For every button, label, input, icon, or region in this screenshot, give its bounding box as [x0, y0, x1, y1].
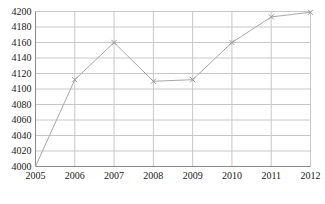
- y-axis-tick-label: 4200: [0, 7, 32, 17]
- y-axis-tick-label: 4120: [0, 69, 32, 79]
- horizontal-gridlines: [36, 12, 311, 167]
- y-axis-tick-label: 4080: [0, 100, 32, 110]
- y-axis-tick-label: 4160: [0, 38, 32, 48]
- x-axis-tick-label: 2006: [55, 171, 95, 181]
- x-axis-tick-label: 2010: [212, 171, 252, 181]
- y-axis-tick-label: 4060: [0, 115, 32, 125]
- x-axis-tick-label: 2008: [133, 171, 173, 181]
- y-axis-tick-label: 4020: [0, 146, 32, 156]
- x-axis-tick-label: 2009: [173, 171, 213, 181]
- x-axis-tick-label: 2007: [94, 171, 134, 181]
- y-axis-tick-label: 4040: [0, 131, 32, 141]
- x-axis-tick-label: 2011: [251, 171, 291, 181]
- x-axis-tick-label: 2012: [291, 171, 325, 181]
- y-axis-tick-label: 4180: [0, 22, 32, 32]
- line-chart: 4000402040404060408041004120414041604180…: [0, 0, 319, 204]
- y-axis-tick-label: 4100: [0, 84, 32, 94]
- x-axis-tick-label: 2005: [16, 171, 56, 181]
- y-axis-tick-label: 4140: [0, 53, 32, 63]
